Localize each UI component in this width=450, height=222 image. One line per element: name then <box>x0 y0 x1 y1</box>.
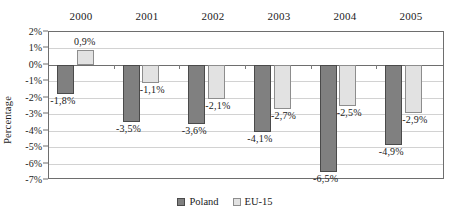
y-tick-label: 1% <box>29 42 42 53</box>
bar-poland-2000 <box>57 65 74 95</box>
year-label-2005: 2005 <box>378 10 444 26</box>
bar-group-2002: -3,6%-2,1% <box>180 32 246 178</box>
y-tick-label: 0% <box>29 58 42 69</box>
bar-poland-2004 <box>320 65 337 172</box>
bar-group-2000: -1,8%0,9% <box>49 32 115 178</box>
data-label: -2,5% <box>337 107 362 118</box>
y-tick-label: -7% <box>25 174 42 185</box>
bar-eu-15-2002 <box>208 65 225 100</box>
bar-group-2005: -4,9%-2,9% <box>377 32 443 178</box>
bar-poland-2003 <box>254 65 271 132</box>
bar-eu-15-2000 <box>77 50 94 65</box>
data-label: -3,5% <box>116 123 141 134</box>
bar-eu-15-2001 <box>142 65 159 83</box>
bar-eu-15-2005 <box>405 65 422 113</box>
data-label: -6,5% <box>313 173 338 184</box>
data-label: -2,1% <box>205 100 230 111</box>
y-tick-label: -1% <box>25 75 42 86</box>
y-tick-label: -4% <box>25 124 42 135</box>
y-axis-ticks: 2%1%0%-1%-2%-3%-4%-5%-6%-7% <box>0 31 48 179</box>
plot-area: -1,8%0,9%-3,5%-1,1%-3,6%-2,1%-4,1%-2,7%-… <box>48 31 444 179</box>
category-axis-top: 200020012002200320042005 <box>48 10 444 26</box>
bar-poland-2005 <box>385 65 402 146</box>
data-label: -4,9% <box>379 146 404 157</box>
bar-group-2001: -3,5%-1,1% <box>115 32 181 178</box>
year-label-2003: 2003 <box>246 10 312 26</box>
year-label-2004: 2004 <box>312 10 378 26</box>
bar-eu-15-2003 <box>274 65 291 109</box>
bar-poland-2002 <box>188 65 205 124</box>
y-tick-label: 2% <box>29 26 42 37</box>
year-label-2002: 2002 <box>180 10 246 26</box>
data-label: -2,9% <box>402 114 427 125</box>
data-label: -1,1% <box>140 84 165 95</box>
bar-group-2004: -6,5%-2,5% <box>312 32 378 178</box>
legend-item-poland[interactable]: Poland <box>177 196 218 207</box>
bar-eu-15-2004 <box>339 65 356 106</box>
y-tick-label: -2% <box>25 91 42 102</box>
chart-legend: PolandEU-15 <box>0 196 450 207</box>
y-tick-label: -6% <box>25 157 42 168</box>
data-label: 0,9% <box>74 36 96 47</box>
data-label: -1,8% <box>50 95 75 106</box>
data-label: -2,7% <box>271 110 296 121</box>
data-label: -4,1% <box>247 133 272 144</box>
legend-label: Poland <box>189 196 218 207</box>
legend-item-eu-15[interactable]: EU-15 <box>233 196 273 207</box>
year-label-2001: 2001 <box>114 10 180 26</box>
bar-chart: 200020012002200320042005 Percentage 2%1%… <box>0 0 450 222</box>
y-tick-label: -5% <box>25 141 42 152</box>
bar-poland-2001 <box>123 65 140 123</box>
year-label-2000: 2000 <box>48 10 114 26</box>
legend-swatch-icon <box>233 198 241 206</box>
data-label: -3,6% <box>182 125 207 136</box>
legend-swatch-icon <box>177 198 185 206</box>
legend-label: EU-15 <box>245 196 273 207</box>
bar-groups: -1,8%0,9%-3,5%-1,1%-3,6%-2,1%-4,1%-2,7%-… <box>49 32 443 178</box>
y-tick-label: -3% <box>25 108 42 119</box>
bar-group-2003: -4,1%-2,7% <box>246 32 312 178</box>
